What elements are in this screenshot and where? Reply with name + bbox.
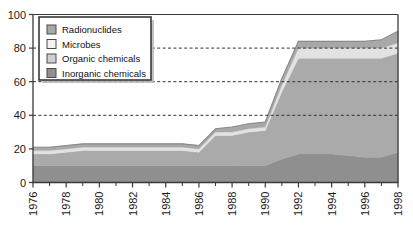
y-tick-label-20: 20 <box>14 143 26 155</box>
legend-label-microbes: Microbes <box>62 39 101 50</box>
legend-swatch-organic-chemicals <box>47 54 56 63</box>
x-tick-label-1990: 1990 <box>259 192 271 216</box>
x-tick-label-1980: 1980 <box>93 192 105 216</box>
x-tick-label-1996: 1996 <box>359 192 371 216</box>
x-tick-label-1976: 1976 <box>27 192 39 216</box>
x-tick-label-1988: 1988 <box>226 192 238 216</box>
legend-swatch-radionuclides <box>47 25 56 34</box>
y-tick-label-100: 100 <box>8 9 26 21</box>
legend-label-radionuclides: Radionuclides <box>62 24 122 35</box>
x-tick-label-1984: 1984 <box>160 192 172 216</box>
x-axis-ticks: 1976197819801982198419861988199019921994… <box>27 183 404 216</box>
y-tick-label-0: 0 <box>20 177 26 189</box>
chart-canvas: 020406080100 197619781980198219841986198… <box>0 0 413 227</box>
x-tick-label-1998: 1998 <box>392 192 404 216</box>
y-tick-label-40: 40 <box>14 109 26 121</box>
y-axis-ticks: 020406080100 <box>8 9 33 189</box>
x-tick-label-1982: 1982 <box>127 192 139 216</box>
legend: RadionuclidesMicrobesOrganic chemicalsIn… <box>39 17 154 83</box>
legend-swatch-inorganic-chemicals <box>47 69 56 78</box>
y-tick-label-60: 60 <box>14 76 26 88</box>
x-tick-label-1978: 1978 <box>60 192 72 216</box>
y-tick-label-80: 80 <box>14 42 26 54</box>
x-tick-label-1994: 1994 <box>326 192 338 216</box>
stacked-area-chart: 020406080100 197619781980198219841986198… <box>0 0 413 227</box>
legend-label-organic-chemicals: Organic chemicals <box>62 53 140 64</box>
legend-swatch-microbes <box>47 40 56 49</box>
x-tick-label-1992: 1992 <box>292 192 304 216</box>
legend-label-inorganic-chemicals: Inorganic chemicals <box>62 68 146 79</box>
x-tick-label-1986: 1986 <box>193 192 205 216</box>
